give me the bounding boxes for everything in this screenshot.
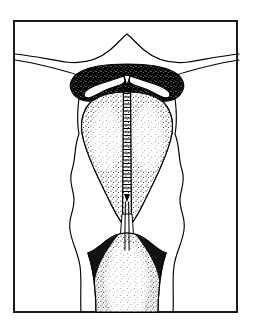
figure-root: Coronal section of the uterus with an in… xyxy=(0,0,254,328)
anatomical-illustration xyxy=(0,0,254,328)
